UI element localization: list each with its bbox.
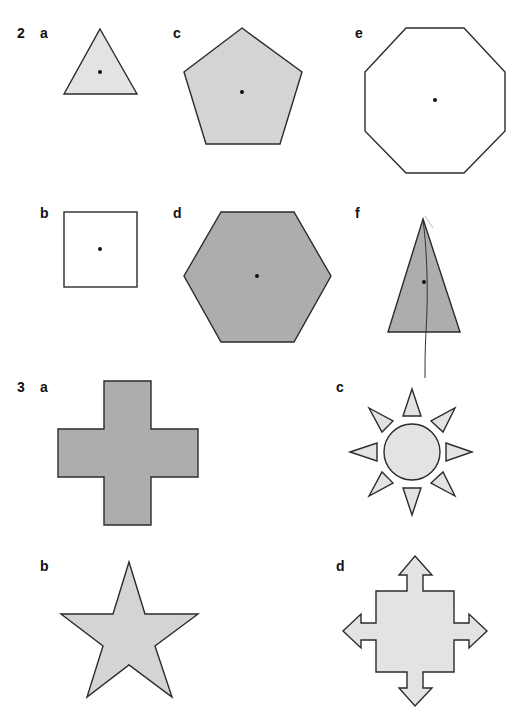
shape-2f-triangle bbox=[388, 216, 460, 378]
shapes-canvas bbox=[0, 0, 518, 722]
shape-2b-square bbox=[64, 212, 137, 287]
center-dot bbox=[98, 70, 102, 74]
shape-3b-star bbox=[61, 562, 198, 697]
shape-2d-hexagon bbox=[184, 212, 331, 342]
shape-3d-arrow-square bbox=[343, 556, 487, 706]
shape-2a-triangle bbox=[64, 29, 137, 94]
center-dot bbox=[422, 280, 426, 284]
center-dot bbox=[433, 98, 437, 102]
shape-2c-pentagon bbox=[184, 28, 302, 144]
shape-3a-cross bbox=[58, 381, 198, 525]
center-dot bbox=[240, 90, 244, 94]
shape-2e-octagon bbox=[365, 28, 505, 173]
center-dot bbox=[98, 247, 102, 251]
shape-3c-sun bbox=[350, 389, 472, 515]
center-dot bbox=[255, 274, 259, 278]
faint-mark bbox=[425, 216, 433, 228]
